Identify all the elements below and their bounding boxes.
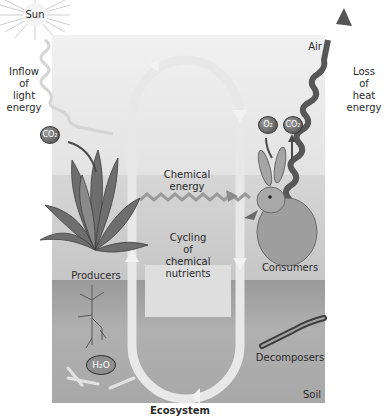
- light-wave-arrow: [41, 40, 113, 134]
- producers-label: Producers: [66, 270, 126, 282]
- co2-consumer-molecule: CO₂: [283, 116, 303, 134]
- air-label: Air: [305, 41, 325, 53]
- plant-roots: [78, 285, 106, 348]
- diagram-title: Ecosystem: [140, 405, 220, 417]
- consumer-rabbit: [244, 146, 317, 266]
- diagram-artwork: [0, 0, 385, 420]
- cycling-nutrients-label: Cycling of chemical nutrients: [145, 232, 231, 280]
- h2o-molecule: H₂O: [86, 355, 116, 375]
- co2-producer-molecule: CO₂: [40, 126, 60, 144]
- chemical-energy-label: Chemical energy: [162, 169, 212, 193]
- nutrient-cycle-arrow: [132, 60, 240, 399]
- soil-label: Soil: [300, 389, 324, 401]
- consumers-label: Consumers: [260, 262, 320, 274]
- o2-molecule: O₂: [258, 116, 278, 134]
- decomposers-label: Decomposers: [255, 352, 325, 364]
